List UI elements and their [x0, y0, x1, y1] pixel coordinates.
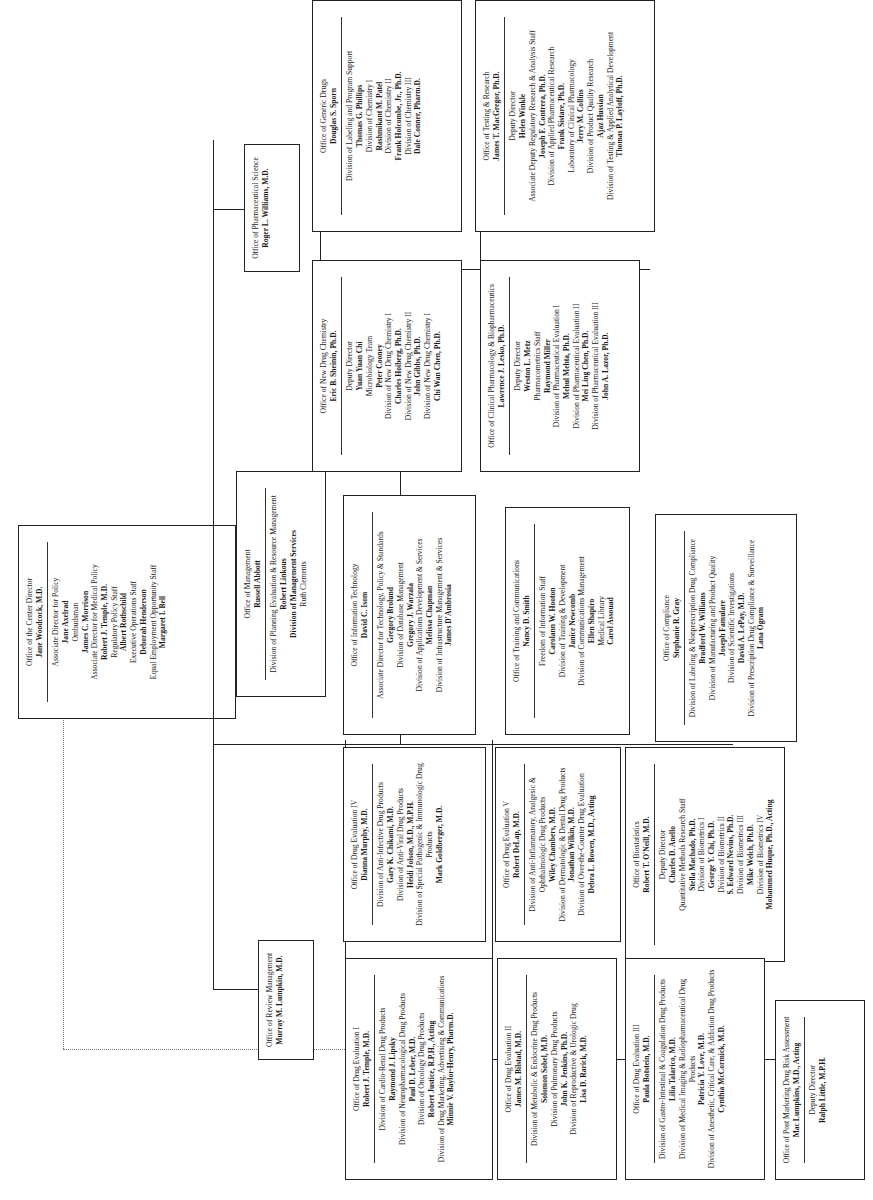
- box-drug-evaluation-v: Office of Drug Evaluation VRobert DeLap,…: [495, 747, 621, 942]
- person-name: Gary K. Chikami, M.D.: [386, 758, 396, 931]
- person-name: Division of Management Services: [289, 482, 299, 686]
- person-name: Patricia Y. Love, M.D.: [697, 969, 707, 1169]
- person-name: Robert J. Temple, M.D.: [100, 536, 110, 708]
- divider: [654, 975, 655, 1163]
- office-head: Robert T. O'Neill, M.D.: [642, 758, 652, 951]
- person-name: Mohammed Huque, Ph.D., Acting: [765, 758, 775, 951]
- office-title: Office of Compliance: [662, 525, 672, 731]
- office-title: Office of Drug Evaluation IV: [350, 758, 360, 931]
- person-name: Heidi Jolson, M.D., M.P.H.: [406, 758, 416, 931]
- unit-title: Division of New Drug Chemistry II: [404, 271, 414, 461]
- office-title: Office of Post Marketing Drug Risk Asses…: [782, 1011, 792, 1169]
- divider: [534, 524, 535, 718]
- person-name: Minnie V. Baylor-Henry, Pharm.D.: [446, 969, 456, 1169]
- office-head: David C. Isom: [360, 506, 370, 724]
- unit-title: Regulatory Policy Staff: [110, 536, 120, 708]
- person-name: Charles Hoiberg, Ph.D.: [394, 271, 404, 461]
- unit-title: Division of Labeling and Program Support: [345, 11, 355, 221]
- unit-title: Division of Biometrics II: [717, 758, 727, 951]
- office-title: Office of Testing & Research: [482, 11, 492, 221]
- person-name: John A. Lazor, Ph.D.: [601, 271, 611, 461]
- office-title: Office of Drug Evaluation II: [504, 969, 514, 1169]
- person-name: Ralph Little, M.P.H.: [818, 1011, 828, 1169]
- person-name: Cynthia McCormick, M.D.: [717, 969, 727, 1169]
- office-title: Office of Drug Evaluation I: [352, 969, 362, 1169]
- office-title: Office of Drug Evaluation III: [632, 969, 642, 1169]
- person-name: Raymond J. Lipsky: [388, 969, 398, 1169]
- box-center-director: Office of the Center DirectorJane Woodco…: [18, 525, 236, 719]
- unit-title: Associate Deputy Regulatory Research & A…: [528, 11, 538, 221]
- unit-title: Associate Director for Policy: [51, 536, 61, 708]
- box-new-drug-chemistry: Office of New Drug ChemistryEric B. Shei…: [312, 260, 462, 472]
- person-name: Dale Conner, Pharm.D.: [413, 11, 423, 221]
- unit-title: Division of Planning Evaluation & Resour…: [269, 482, 279, 686]
- person-name: Charles D. Anello: [668, 758, 678, 951]
- unit-title: Division of Prescription Drug Compliance…: [747, 525, 757, 731]
- person-name: Solomon Sobel, M.D.: [540, 969, 550, 1169]
- box-review-management: Office of Review ManagementMurray M. Lum…: [258, 940, 314, 1060]
- unit-title: Division of Gastro-Intestinal & Coagulat…: [658, 969, 668, 1169]
- divider: [47, 542, 48, 702]
- unit-title: Division of Oncology Drug Products: [417, 969, 427, 1169]
- unit-title: Division of Pulmonary Drug Products: [550, 969, 560, 1169]
- office-title: Office of Training and Communications: [512, 518, 522, 724]
- divider: [341, 277, 342, 455]
- person-name: Frank Sistare, Ph.D.: [557, 11, 567, 221]
- person-name: Deborah Henderson: [139, 536, 149, 708]
- office-title: Office of the Center Director: [25, 536, 35, 708]
- org-chart: Office of the Center DirectorJane Woodco…: [0, 0, 873, 1200]
- office-head: James T. MacGregor, Ph.D.: [492, 11, 502, 221]
- person-name: Helen Winkle: [518, 11, 528, 221]
- person-name: John K. Jenkins, Ph.D.: [560, 969, 570, 1169]
- office-head: James M. Bilstad, M.D.: [514, 969, 524, 1169]
- office-title: Office of Clinical Pharmacology & Biopha…: [487, 271, 497, 461]
- unit-title: Division of Over-the-Counter Drug Evalua…: [577, 758, 587, 931]
- unit-title: Division of Medical Imaging & Radiopharm…: [678, 969, 697, 1169]
- box-compliance: Office of ComplianceStephanie R. GrayDiv…: [655, 514, 797, 742]
- unit-title: Microbiology Team: [365, 271, 375, 461]
- connector: [213, 989, 258, 990]
- person-name: Carol Assouad: [606, 518, 616, 724]
- dotted-connector: [63, 720, 64, 1050]
- unit-title: Deputy Director: [513, 271, 523, 461]
- person-name: George Y. Chi, Ph.D.: [707, 758, 717, 951]
- box-management: Office of ManagementRussell AbbottDivisi…: [236, 471, 326, 697]
- divider: [509, 277, 510, 455]
- person-name: Ellen Shapiro: [587, 518, 597, 724]
- office-head: Nancy D. Smith: [522, 518, 532, 724]
- person-name: Lilia Talarico, M.D.: [668, 969, 678, 1169]
- unit-title: Deputy Director: [345, 271, 355, 461]
- unit-title: Deputy Director: [808, 1011, 818, 1169]
- divider: [374, 975, 375, 1163]
- person-name: Thomas P. Layloff, Ph.D.: [615, 11, 625, 221]
- unit-title: Division of Special Pathogenic & Immunol…: [415, 758, 434, 931]
- person-name: Robert Linkous: [279, 482, 289, 686]
- unit-title: Division of Biometrics I: [697, 758, 707, 951]
- box-drug-evaluation-iii: Office of Drug Evaluation IIIPaula Botst…: [625, 958, 765, 1180]
- person-name: Gregory J. Warzala: [406, 506, 416, 724]
- unit-title: Division of Testing & Applied Analytical…: [606, 11, 616, 221]
- person-name: Stella Machado, Ph.D.: [688, 758, 698, 951]
- connector-trunk: [213, 140, 214, 990]
- person-name: Jane Axelrad: [61, 536, 71, 708]
- unit-title: Pharmacometrics Staff: [533, 271, 543, 461]
- office-head: Murray M. Lumpkin, M.D.: [275, 951, 285, 1049]
- unit-title: Division of Anesthetic, Critical Care, &…: [707, 969, 717, 1169]
- person-name: Raymond Miller: [543, 271, 553, 461]
- unit-title: Ombudsman: [71, 536, 81, 708]
- divider: [804, 1017, 805, 1163]
- office-head: Paula Botstein, M.D.: [642, 969, 652, 1169]
- person-name: Melissa Chapman: [425, 506, 435, 724]
- unit-title: Division of Pharmaceutical Evaluation II: [572, 271, 582, 461]
- office-head: Stephanie R. Gray: [672, 525, 682, 731]
- office-title: Office of Information Technology: [350, 506, 360, 724]
- unit-title: Freedom of Information Staff: [538, 518, 548, 724]
- unit-title: Division of Training & Development: [558, 518, 568, 724]
- box-clinical-pharmacology: Office of Clinical Pharmacology & Biopha…: [480, 260, 640, 472]
- person-name: Lisa D. Rarick, M.D.: [579, 969, 589, 1169]
- box-drug-evaluation-i: Office of Drug Evaluation IRobert J. Tem…: [345, 958, 493, 1180]
- unit-title: Division of Applied Pharmaceutical Resea…: [547, 11, 557, 221]
- unit-title: Division of Pharmaceutical Evaluation II…: [591, 271, 601, 461]
- unit-title: Division of New Drug Chemistry I: [423, 271, 433, 461]
- person-name: Wiley Chambers, M.D.: [548, 758, 558, 931]
